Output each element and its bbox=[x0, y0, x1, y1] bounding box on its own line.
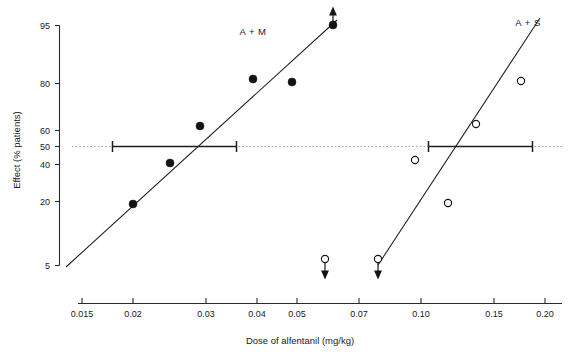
series-label-a-m: A + M bbox=[239, 26, 266, 37]
x-tick-label-0.015: 0.015 bbox=[71, 309, 94, 319]
y-tick-label-5: 5 bbox=[45, 261, 50, 271]
series-label-a-s: A + S bbox=[515, 17, 540, 28]
censor-arrow-down-icon bbox=[375, 262, 381, 278]
censor-arrow-down-icon bbox=[322, 262, 328, 278]
x-axis-title: Dose of alfentanil (mg/kg) bbox=[246, 335, 354, 346]
y-tick-label-60: 60 bbox=[40, 126, 50, 136]
error-bar-a-m bbox=[112, 141, 237, 152]
error-bar-a-s bbox=[428, 141, 533, 152]
y-tick-label-50: 50 bbox=[40, 142, 50, 152]
x-tick-label-0.20: 0.20 bbox=[536, 309, 554, 319]
x-tick-label-0.10: 0.10 bbox=[412, 309, 430, 319]
data-point bbox=[444, 199, 451, 206]
data-point bbox=[374, 255, 381, 262]
data-point bbox=[472, 120, 479, 127]
y-tick-label-20: 20 bbox=[40, 197, 50, 207]
y-tick-label-40: 40 bbox=[40, 160, 50, 170]
data-point bbox=[166, 159, 174, 167]
data-point bbox=[321, 255, 328, 262]
x-tick-label-0.15: 0.15 bbox=[485, 309, 503, 319]
x-axis: 0.015 0.02 0.03 0.04 0.05 0.07 0.10 0.15… bbox=[71, 298, 562, 346]
y-tick-label-80: 80 bbox=[40, 79, 50, 89]
data-point bbox=[129, 200, 137, 208]
data-point bbox=[517, 77, 524, 84]
y-tick-label-95: 95 bbox=[40, 21, 50, 31]
y-axis: 95 80 60 50 40 20 5 Effect (% patients) bbox=[11, 21, 60, 271]
fit-line-a-m bbox=[66, 20, 337, 267]
y-axis-title: Effect (% patients) bbox=[11, 111, 22, 188]
x-tick-label-0.05: 0.05 bbox=[288, 309, 306, 319]
dose-response-chart: 95 80 60 50 40 20 5 Effect (% patients) … bbox=[0, 0, 570, 356]
x-tick-label-0.07: 0.07 bbox=[350, 309, 368, 319]
x-tick-label-0.03: 0.03 bbox=[197, 309, 215, 319]
data-point bbox=[288, 78, 296, 86]
fit-line-a-s bbox=[378, 18, 540, 265]
data-point bbox=[196, 122, 204, 130]
x-tick-label-0.04: 0.04 bbox=[248, 309, 266, 319]
series-a-m: A + M bbox=[66, 8, 337, 267]
x-tick-label-0.02: 0.02 bbox=[124, 309, 142, 319]
data-point bbox=[411, 156, 418, 163]
data-point bbox=[249, 75, 257, 83]
series-a-s: A + S bbox=[321, 17, 540, 278]
